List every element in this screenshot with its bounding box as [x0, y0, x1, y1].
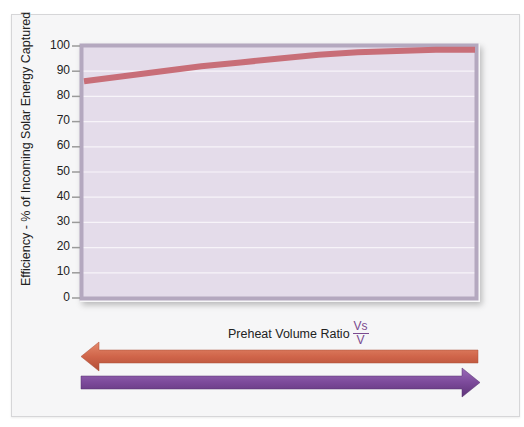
x-axis-label-text: Preheat Volume Ratio	[228, 327, 350, 341]
y-axis-label: Efficiency - % of Incoming Solar Energy …	[19, 46, 33, 286]
y-tick-90: 90	[36, 63, 70, 77]
y-tick-50: 50	[36, 164, 70, 178]
y-tick-80: 80	[36, 88, 70, 102]
y-tick-40: 40	[36, 189, 70, 203]
y-tick-60: 60	[36, 138, 70, 152]
y-tick-marks	[72, 46, 80, 298]
y-tick-10: 10	[36, 264, 70, 278]
y-tick-20: 20	[36, 239, 70, 253]
chart-svg	[0, 0, 524, 427]
x-axis-label: Preheat Volume Ratio Vs V	[228, 320, 369, 347]
arrow-right-icon	[81, 368, 480, 397]
fraction-numerator: Vs	[353, 320, 369, 334]
volume-ratio-fraction: Vs V	[353, 320, 369, 347]
y-tick-100: 100	[36, 38, 70, 52]
y-tick-70: 70	[36, 113, 70, 127]
y-tick-30: 30	[36, 214, 70, 228]
y-tick-0: 0	[36, 290, 70, 304]
fraction-denominator: V	[357, 334, 365, 347]
